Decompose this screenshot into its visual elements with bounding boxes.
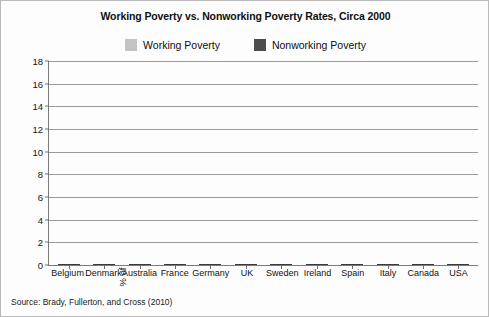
x-axis-tick-label: Australia	[122, 268, 157, 278]
x-axis-tick-label: Sweden	[265, 268, 300, 278]
bar-group[interactable]	[264, 61, 299, 265]
x-axis-labels: BelgiumDenmarkAustraliaFranceGermanyUKSw…	[48, 268, 478, 278]
bar-group[interactable]	[370, 61, 405, 265]
x-axis-tick-label: Italy	[370, 268, 405, 278]
bar-group[interactable]	[334, 61, 369, 265]
plot-wrapper: % of households in poverty 0246810121416…	[48, 61, 478, 266]
x-axis-tick-label: France	[157, 268, 192, 278]
legend-item-nonworking-poverty: Nonworking Poverty	[254, 39, 366, 51]
x-axis-tick-label: Germany	[192, 268, 229, 278]
bar-group[interactable]	[51, 61, 86, 265]
y-axis-tick-label: 8	[38, 169, 43, 180]
x-axis-tick-label: Canada	[406, 268, 441, 278]
bar-group[interactable]	[193, 61, 228, 265]
chart-title: Working Poverty vs. Nonworking Poverty R…	[1, 10, 489, 22]
y-axis-tick-label: 18	[32, 56, 43, 67]
bar-group[interactable]	[405, 61, 440, 265]
y-axis-tick-label: 12	[32, 123, 43, 134]
y-axis-tick-label: 14	[32, 101, 43, 112]
bar-group[interactable]	[228, 61, 263, 265]
bar-group[interactable]	[157, 61, 192, 265]
legend-swatch-nonworking-poverty	[254, 39, 266, 51]
bar-group[interactable]	[299, 61, 334, 265]
x-axis-tick-label: UK	[229, 268, 264, 278]
chart-figure: Working Poverty vs. Nonworking Poverty R…	[0, 0, 489, 317]
legend-swatch-working-poverty	[125, 39, 137, 51]
x-axis-tick-label: Denmark	[85, 268, 122, 278]
legend-label-working-poverty: Working Poverty	[143, 39, 220, 51]
bar-group[interactable]	[86, 61, 121, 265]
plot-area: 024681012141618	[48, 61, 478, 266]
source-note: Source: Brady, Fullerton, and Cross (201…	[11, 297, 172, 307]
x-axis-tick-label: USA	[441, 268, 476, 278]
y-axis-tick-label: 16	[32, 78, 43, 89]
y-axis-tick-label: 0	[38, 260, 43, 271]
chart-legend: Working Poverty Nonworking Poverty	[1, 39, 489, 51]
x-axis-tick-label: Belgium	[50, 268, 85, 278]
y-axis-tick-label: 6	[38, 191, 43, 202]
y-axis-tick-label: 10	[32, 146, 43, 157]
y-axis-tick-label: 4	[38, 214, 43, 225]
legend-item-working-poverty: Working Poverty	[125, 39, 220, 51]
bar-group[interactable]	[441, 61, 476, 265]
y-axis-tick-label: 2	[38, 237, 43, 248]
x-axis-tick-label: Ireland	[300, 268, 335, 278]
bar-series-container	[49, 61, 478, 265]
bar-group[interactable]	[122, 61, 157, 265]
legend-label-nonworking-poverty: Nonworking Poverty	[272, 39, 366, 51]
x-axis-tick-label: Spain	[335, 268, 370, 278]
